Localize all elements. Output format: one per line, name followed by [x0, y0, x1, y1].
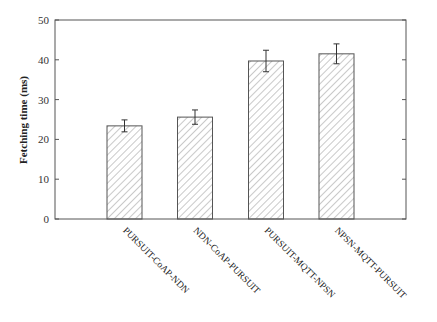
- x-category-label: NDN-CoAP-PURSUIT: [192, 225, 263, 296]
- plot-area: 01020304050PURSUIT-CoAP-NDNNDN-CoAP-PURS…: [38, 14, 408, 301]
- bar: [178, 117, 213, 219]
- y-tick-label: 30: [38, 94, 50, 106]
- bar-chart: 01020304050PURSUIT-CoAP-NDNNDN-CoAP-PURS…: [0, 0, 437, 322]
- y-tick-label: 10: [38, 173, 50, 185]
- y-tick-label: 40: [38, 54, 50, 66]
- x-category-label: PURSUIT-MQTT-NPSN: [263, 225, 338, 300]
- bar: [107, 126, 142, 219]
- y-axis-label: Fetching time (ms): [17, 76, 30, 164]
- bar: [249, 61, 284, 219]
- bar: [319, 54, 354, 219]
- y-tick-label: 0: [44, 213, 50, 225]
- x-category-label: NPSN-MQTT-PURSUIT: [333, 225, 408, 300]
- y-tick-label: 20: [38, 133, 50, 145]
- x-category-label: PURSUIT-CoAP-NDN: [121, 225, 191, 295]
- y-tick-label: 50: [38, 14, 50, 26]
